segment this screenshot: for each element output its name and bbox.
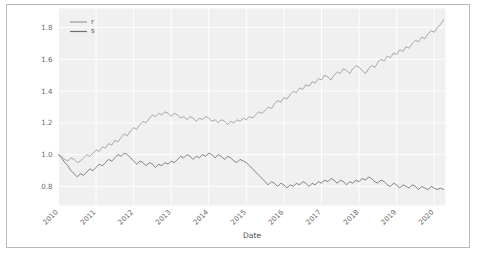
x-tick-label: 2019 <box>379 207 398 226</box>
legend-label-r: r <box>91 17 94 26</box>
y-tick-label: 1.8 <box>41 23 53 32</box>
x-tick-label: 2013 <box>153 208 172 227</box>
line-chart: 0.81.01.21.41.61.82010201120122013201420… <box>0 0 477 253</box>
x-tick-label: 2016 <box>266 207 285 226</box>
x-tick-label: 2011 <box>78 208 97 227</box>
y-tick-label: 1.6 <box>41 55 53 64</box>
x-tick-label: 2014 <box>191 207 210 226</box>
x-tick-label: 2015 <box>229 208 248 227</box>
x-axis-title: Date <box>243 231 261 240</box>
figure-container: 0.81.01.21.41.61.82010201120122013201420… <box>0 0 477 253</box>
y-tick-label: 1.0 <box>41 150 53 159</box>
legend-label-s: s <box>91 26 95 35</box>
x-tick-label: 2018 <box>341 207 360 226</box>
plot-background <box>59 9 446 206</box>
y-tick-label: 1.4 <box>41 87 53 96</box>
x-axis-ticks: 2010201120122013201420152016201720182019… <box>41 207 436 226</box>
y-tick-label: 0.8 <box>41 182 53 191</box>
x-tick-label: 2020 <box>417 207 436 226</box>
y-tick-label: 1.2 <box>41 118 52 127</box>
x-tick-label: 2010 <box>41 207 60 226</box>
x-tick-label: 2017 <box>304 208 323 227</box>
x-tick-label: 2012 <box>116 208 135 227</box>
y-axis-ticks: 0.81.01.21.41.61.8 <box>41 23 53 191</box>
